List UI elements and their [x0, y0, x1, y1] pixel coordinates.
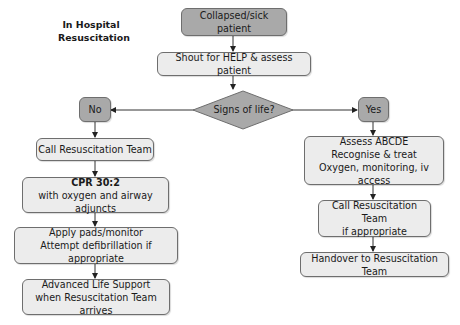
node-call-resuscitation-team: Call Resuscitation Team	[36, 138, 154, 161]
node-cpr: CPR 30:2 with oxygen and airway adjuncts	[22, 177, 169, 213]
node-label-line-2: Attempt defibrillation if appropriate	[15, 239, 177, 265]
node-collapsed-patient: Collapsed/sick patient	[181, 8, 287, 36]
node-label-line-1: Assess ABCDE	[340, 135, 409, 148]
node-label-line-2: if appropriate	[342, 225, 407, 238]
node-apply-pads: Apply pads/monitor Attempt defibrillatio…	[14, 227, 178, 264]
node-label-line-1: CPR 30:2	[71, 176, 120, 189]
node-label-line-2: Recognise & treat	[331, 148, 417, 161]
node-assess-abcde: Assess ABCDE Recognise & treat Oxygen, m…	[304, 136, 444, 185]
node-label-line-2: when Resuscitation Team arrives	[23, 291, 169, 317]
node-label-line-2: with oxygen and airway adjuncts	[23, 189, 168, 215]
diagram-title: In Hospital Resuscitation	[58, 18, 124, 44]
node-label-line-1: Advanced Life Support	[42, 278, 151, 291]
node-handover: Handover to Resuscitation Team	[300, 252, 449, 277]
decision-label: Signs of life?	[206, 103, 282, 116]
node-label: Handover to Resuscitation Team	[301, 252, 448, 278]
node-shout-for-help: Shout for HELP & assess patient	[157, 52, 311, 76]
node-advanced-life-support: Advanced Life Support when Resuscitation…	[22, 279, 170, 315]
node-label: Collapsed/sick patient	[182, 9, 286, 35]
node-label: Call Resuscitation Team	[38, 143, 152, 156]
node-call-team-if-appropriate: Call Resuscitation Team if appropriate	[318, 200, 431, 237]
node-label: No	[88, 103, 101, 116]
node-label: Shout for HELP & assess patient	[158, 51, 310, 77]
node-no: No	[79, 97, 111, 122]
node-label: Yes	[366, 103, 382, 116]
node-yes: Yes	[358, 97, 389, 122]
node-label-line-3: Oxygen, monitoring, iv access	[305, 161, 443, 187]
title-line-2: Resuscitation	[58, 31, 124, 44]
node-label-line-1: Apply pads/monitor	[49, 226, 143, 239]
node-label-line-1: Call Resuscitation Team	[319, 199, 430, 225]
title-line-1: In Hospital	[58, 18, 124, 31]
